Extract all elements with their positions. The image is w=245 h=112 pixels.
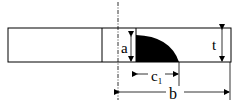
plate-outline <box>8 28 231 62</box>
label-b: b <box>169 85 177 102</box>
crack-diagram: a t c1 b <box>0 0 245 112</box>
label-c1: c1 <box>151 68 162 86</box>
crack-shape <box>136 35 179 62</box>
label-t: t <box>212 37 217 53</box>
label-a: a <box>121 40 128 56</box>
